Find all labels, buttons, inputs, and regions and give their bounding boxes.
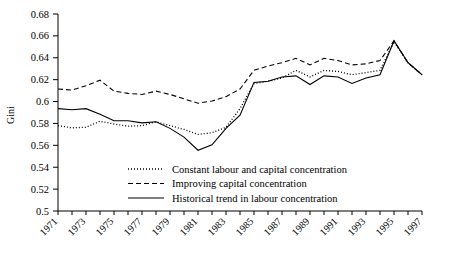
y-tick-label: 0.64	[31, 52, 50, 63]
x-tick-label: 1985	[233, 216, 255, 238]
x-tick-label: 1983	[205, 216, 227, 238]
y-tick-label: 0.62	[31, 74, 49, 85]
x-tick-label: 1987	[261, 216, 283, 238]
x-tick-label: 1979	[149, 216, 171, 238]
gini-line-chart: Gini 0.50.520.540.560.580.60.620.640.660…	[0, 0, 450, 260]
y-tick-label: 0.5	[36, 206, 49, 217]
y-tick-label: 0.56	[31, 140, 49, 151]
y-axis-ticks: 0.50.520.540.560.580.60.620.640.660.68	[31, 9, 58, 217]
x-tick-label: 1995	[373, 216, 395, 238]
legend-label-0: Constant labour and capital concentratio…	[172, 164, 348, 175]
y-tick-label: 0.6	[36, 96, 49, 107]
y-tick-label: 0.66	[31, 30, 49, 41]
legend-label-1: Improving capital concentration	[172, 178, 307, 189]
y-axis-title: Gini	[5, 106, 16, 124]
x-tick-label: 1971	[37, 216, 59, 238]
y-tick-label: 0.68	[31, 9, 49, 20]
series-line-2	[58, 41, 422, 150]
x-tick-label: 1981	[177, 216, 199, 238]
x-tick-label: 1997	[401, 216, 423, 238]
x-tick-label: 1973	[65, 216, 87, 238]
x-tick-label: 1977	[121, 216, 143, 238]
x-axis-ticks: 1971197319751977197919811983198519871989…	[37, 211, 423, 238]
legend-label-2: Historical trend in labour concentration	[172, 193, 338, 204]
x-tick-label: 1975	[93, 216, 115, 238]
chart-canvas: Gini 0.50.520.540.560.580.60.620.640.660…	[0, 0, 450, 260]
y-tick-label: 0.54	[31, 162, 50, 173]
series-line-1	[58, 41, 422, 103]
data-series-group	[58, 41, 422, 150]
y-tick-label: 0.58	[31, 118, 49, 129]
x-tick-label: 1989	[289, 216, 311, 238]
x-tick-label: 1993	[345, 216, 367, 238]
chart-legend: Constant labour and capital concentratio…	[128, 164, 348, 204]
y-tick-label: 0.52	[31, 184, 49, 195]
y-axis-title-group: Gini	[5, 106, 16, 124]
x-tick-label: 1991	[317, 216, 339, 238]
